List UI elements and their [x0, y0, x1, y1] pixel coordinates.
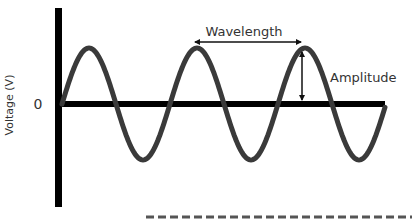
y-axis — [55, 8, 62, 207]
amplitude-label: Amplitude — [330, 70, 397, 85]
sine-wave-diagram: Wavelength Amplitude 0 Voltage (V) — [0, 0, 412, 220]
zero-label: 0 — [34, 96, 43, 112]
wavelength-label: Wavelength — [205, 24, 282, 39]
y-axis-label: Voltage (V) — [3, 75, 16, 136]
